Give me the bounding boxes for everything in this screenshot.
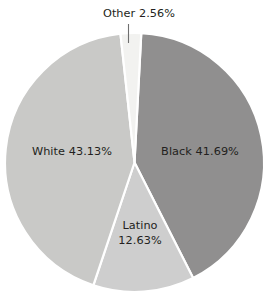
pie-slices — [5, 33, 264, 292]
pie-chart-canvas — [0, 0, 278, 303]
pie-chart: Other 2.56% Black 41.69% White 43.13% La… — [0, 0, 278, 303]
